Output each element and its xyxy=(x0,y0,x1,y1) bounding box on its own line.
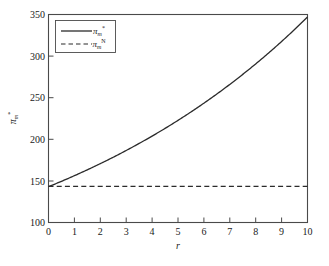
y-tick-label-4: 300 xyxy=(30,51,45,62)
y-tick-label-1: 150 xyxy=(30,176,45,187)
x-tick-label-2: 2 xyxy=(98,226,103,237)
x-tick-label-0: 0 xyxy=(46,226,51,237)
y-tick-label-3: 250 xyxy=(30,92,45,103)
legend-box xyxy=(56,21,116,53)
chart-figure: 100 150 200 250 300 350 0 1 2 3 4 5 6 7 … xyxy=(0,0,329,266)
x-tick-label-5: 5 xyxy=(176,226,181,237)
x-tick-label-4: 4 xyxy=(150,226,155,237)
legend-label-1-sup: * xyxy=(102,25,105,31)
x-tick-label-8: 8 xyxy=(253,226,258,237)
y-tick-label-0: 100 xyxy=(30,217,45,228)
y-axis-title-sup: * xyxy=(7,112,13,115)
legend-label-2-sup: N xyxy=(101,38,106,44)
x-tick-label-6: 6 xyxy=(201,226,206,237)
y-axis-title-sub: m xyxy=(13,114,19,119)
y-tick-label-5: 350 xyxy=(30,9,45,20)
x-axis-title: r xyxy=(176,240,180,251)
x-tick-label-10: 10 xyxy=(303,226,313,237)
y-tick-label-2: 200 xyxy=(30,134,45,145)
legend: πm* πmN xyxy=(56,21,116,53)
legend-label-1-sub: m xyxy=(98,31,103,37)
x-tick-label-1: 1 xyxy=(72,226,77,237)
x-tick-label-9: 9 xyxy=(279,226,284,237)
x-tick-label-7: 7 xyxy=(227,226,232,237)
legend-label-2-sub: m xyxy=(97,44,102,50)
x-tick-label-3: 3 xyxy=(124,226,129,237)
